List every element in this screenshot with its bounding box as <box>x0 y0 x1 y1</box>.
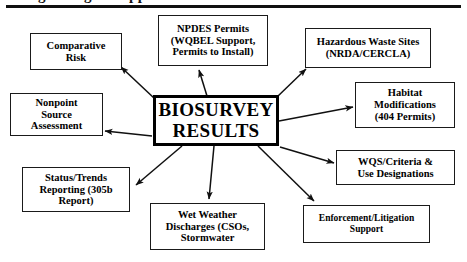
wqs-line2: Use Designations <box>354 168 436 180</box>
node-npdes-permits[interactable]: NPDES Permits (WQBEL Support, Permits to… <box>158 15 268 66</box>
enforcement-line1: Enforcement/Litigation <box>316 213 417 224</box>
wet-weather-line2: Discharges (CSOs, <box>163 221 252 233</box>
center-label-line2: RESULTS <box>156 121 277 142</box>
npdes-permits-line1: NPDES Permits <box>168 23 259 35</box>
arrow-to-comparative-risk <box>121 67 155 99</box>
comparative-risk-line2: Risk <box>44 52 109 64</box>
arrow-to-habitat-modifications <box>279 107 353 121</box>
node-status-trends-reporting[interactable]: Status/Trends Reporting (305b Report) <box>22 167 130 212</box>
enforcement-line2: Support <box>316 224 417 235</box>
wet-weather-line1: Wet Weather <box>163 209 252 221</box>
node-enforcement-litigation-support[interactable]: Enforcement/Litigation Support <box>303 205 430 243</box>
status-trends-line1: Status/Trends <box>36 172 115 184</box>
center-node-biosurvey-results[interactable]: BIOSURVEY RESULTS <box>153 95 279 146</box>
node-habitat-modifications[interactable]: Habitat Modifications (404 Permits) <box>355 82 455 128</box>
arrow-to-wet-weather-discharges <box>209 146 214 199</box>
hazardous-waste-line1: Hazardous Waste Sites <box>314 36 422 48</box>
nonpoint-line2: Source <box>28 109 85 121</box>
diagram-page: Using Biological Approaches BIOSURVEY RE… <box>0 0 467 262</box>
npdes-permits-line3: Permits to Install) <box>168 46 259 58</box>
node-nonpoint-source-assessment[interactable]: Nonpoint Source Assessment <box>10 93 103 136</box>
arrow-to-npdes-permits <box>199 70 207 96</box>
node-hazardous-waste-sites[interactable]: Hazardous Waste Sites (NRDA/CERCLA) <box>305 28 431 68</box>
status-trends-line3: Report) <box>36 195 115 207</box>
npdes-permits-line2: (WQBEL Support, <box>168 35 259 47</box>
nonpoint-line1: Nonpoint <box>28 97 85 109</box>
node-wet-weather-discharges[interactable]: Wet Weather Discharges (CSOs, Stormwater <box>150 203 265 250</box>
wet-weather-line3: Stormwater <box>163 232 252 244</box>
arrow-to-hazardous-waste-sites <box>277 69 306 97</box>
wqs-line1: WQS/Criteria & <box>354 156 436 168</box>
node-comparative-risk[interactable]: Comparative Risk <box>30 33 122 70</box>
hazardous-waste-line2: (NRDA/CERCLA) <box>314 48 422 60</box>
arrow-to-status-trends-reporting <box>136 146 182 185</box>
arrow-to-wqs-criteria <box>280 147 334 163</box>
habitat-line3: (404 Permits) <box>371 111 439 123</box>
status-trends-line2: Reporting (305b <box>36 184 115 196</box>
node-wqs-criteria-use-designations[interactable]: WQS/Criteria & Use Designations <box>336 150 455 185</box>
center-label-line1: BIOSURVEY <box>156 100 277 121</box>
habitat-line2: Modifications <box>371 99 439 111</box>
comparative-risk-line1: Comparative <box>44 40 109 52</box>
nonpoint-line3: Assessment <box>28 120 85 132</box>
arrow-to-nonpoint-source-assessment <box>105 131 152 136</box>
habitat-line1: Habitat <box>371 87 439 99</box>
